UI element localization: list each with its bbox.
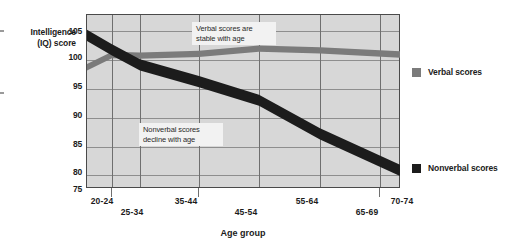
- annotation-nonverbal: Nonverbal scores decline with age: [139, 123, 223, 146]
- y-axis-title-line-2: (IQ) score: [8, 38, 76, 49]
- page-edge-mark-top: [0, 30, 4, 32]
- y-tick-label: 105: [56, 26, 82, 36]
- legend-swatch-nonverbal: [412, 164, 421, 173]
- y-tick-label: 100: [56, 52, 82, 62]
- x-axis-title: Age group: [86, 228, 400, 238]
- y-tick-label: 80: [56, 167, 82, 177]
- x-tick-label-20-24: 20-24: [80, 196, 124, 206]
- page-edge-mark-bottom: [0, 92, 4, 94]
- y-tick-label: 75: [56, 184, 82, 194]
- y-tick-label: 90: [56, 110, 82, 120]
- legend-swatch-verbal: [412, 68, 421, 77]
- x-tick-label-65-69: 65-69: [345, 207, 389, 217]
- legend-label-verbal: Verbal scores: [428, 67, 482, 77]
- y-tick-label: 85: [56, 139, 82, 149]
- legend-label-nonverbal: Nonverbal scores: [428, 163, 498, 173]
- chart-figure: Intelligence (IQ) score 105 100 95 90 85…: [0, 0, 515, 248]
- legend-item-verbal[interactable]: Verbal scores: [412, 67, 482, 77]
- annotation-verbal: Verbal scores are stable with age: [192, 22, 276, 45]
- x-tick-label-45-54: 45-54: [224, 207, 268, 217]
- y-tick-label: 95: [56, 81, 82, 91]
- x-tick-label-25-34: 25-34: [110, 207, 154, 217]
- legend-item-nonverbal[interactable]: Nonverbal scores: [412, 163, 498, 173]
- x-tick-label-70-74: 70-74: [380, 196, 424, 206]
- x-tick-label-55-64: 55-64: [285, 196, 329, 206]
- x-tick-label-35-44: 35-44: [164, 196, 208, 206]
